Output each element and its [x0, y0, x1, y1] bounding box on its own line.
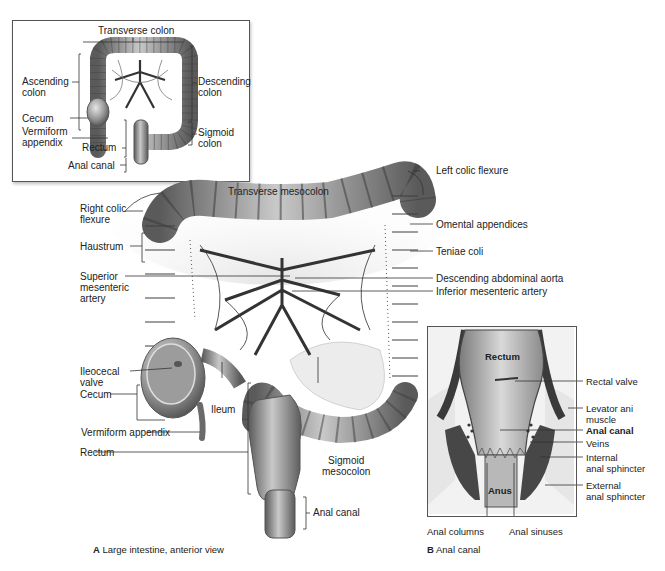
label-rectum-overview: Rectum: [82, 142, 116, 153]
label-superior-mesenteric-artery: Superior mesenteric artery: [80, 271, 129, 304]
caption-a-letter: A: [93, 544, 100, 555]
label-descending-abdominal-aorta: Descending abdominal aorta: [436, 273, 563, 284]
label-internal-anal-sphincter: Internal anal sphincter: [586, 452, 645, 474]
label-anal-columns: Anal columns: [427, 526, 484, 537]
label-cecum-overview: Cecum: [22, 113, 54, 124]
label-rectal-valve: Rectal valve: [586, 376, 638, 387]
label-left-colic-flexure: Left colic flexure: [436, 165, 508, 176]
label-teniae-coli: Teniae coli: [436, 246, 483, 257]
caption-b-text: Anal canal: [436, 544, 480, 555]
label-external-anal-sphincter: External anal sphincter: [586, 480, 645, 502]
label-levator-ani-muscle: Levator ani muscle: [586, 403, 633, 425]
label-ascending-colon: Ascending colon: [22, 76, 69, 98]
label-anal-canal-overview: Anal canal: [68, 160, 115, 171]
label-vermiform-appendix-overview: Vermiform appendix: [22, 126, 68, 148]
label-descending-colon: Descending colon: [198, 76, 251, 98]
caption-b: B Anal canal: [427, 544, 480, 555]
label-inferior-mesenteric-artery: Inferior mesenteric artery: [436, 286, 547, 297]
label-rectum: Rectum: [80, 447, 114, 458]
label-ileocecal-valve: Ileocecal valve: [80, 366, 119, 388]
caption-b-letter: B: [427, 544, 434, 555]
label-vermiform-appendix: Vermiform appendix: [81, 427, 170, 438]
label-rectum-detail: Rectum: [485, 351, 520, 362]
label-anal-sinuses: Anal sinuses: [509, 526, 563, 537]
label-sigmoid-mesocolon: Sigmoid mesocolon: [322, 455, 370, 477]
label-transverse-colon: Transverse colon: [98, 25, 174, 36]
label-haustrum: Haustrum: [80, 241, 123, 252]
main-colon-drawing: [108, 145, 448, 538]
label-right-colic-flexure: Right colic flexure: [80, 203, 126, 225]
label-sigmoid-colon: Sigmoid colon: [198, 127, 234, 149]
label-omental-appendices: Omental appendices: [436, 219, 528, 230]
caption-a-text: Large intestine, anterior view: [103, 544, 224, 555]
caption-a: A Large intestine, anterior view: [93, 544, 224, 555]
label-veins: Veins: [586, 438, 609, 449]
label-anal-canal-detail: Anal canal: [586, 425, 634, 436]
label-transverse-mesocolon: Transverse mesocolon: [228, 186, 329, 197]
label-cecum: Cecum: [80, 389, 112, 400]
label-anus: Anus: [488, 485, 512, 496]
label-ileum: Ileum: [211, 404, 235, 415]
label-anal-canal: Anal canal: [313, 507, 360, 518]
